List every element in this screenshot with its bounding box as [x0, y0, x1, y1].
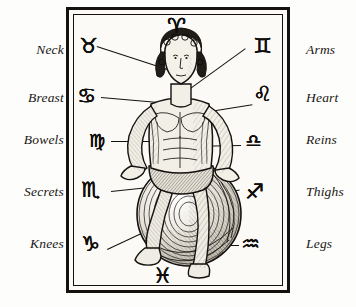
zodiac-glyph-capricorn: ♑ — [81, 234, 100, 255]
body-label-reins: Reins — [306, 133, 337, 147]
figure-neck — [171, 84, 191, 107]
body-label-heart: Heart — [306, 91, 339, 105]
zodiac-glyph-leo: ♌ — [253, 84, 272, 105]
plate-frame-outer: ♈ ♓ ♉ ♋ ♍ ♏ ♑ ♊ ♌ ♎ ♐ ♒ — [66, 7, 290, 293]
zodiac-man-figure — [105, 18, 255, 286]
zodiac-glyph-gemini: ♊ — [253, 36, 272, 57]
zodiac-glyph-aries: ♈ — [167, 16, 186, 37]
zodiac-glyph-pisces: ♓ — [153, 266, 172, 287]
zodiac-glyph-aquarius: ♒ — [241, 234, 260, 255]
body-label-neck: Neck — [36, 43, 64, 57]
body-label-knees: Knees — [30, 237, 64, 251]
zodiac-glyph-taurus: ♉ — [79, 36, 98, 57]
body-label-arms: Arms — [306, 43, 335, 57]
body-label-bowels: Bowels — [24, 133, 64, 147]
body-label-legs: Legs — [306, 237, 332, 251]
zodiac-glyph-scorpio: ♏ — [81, 180, 100, 201]
body-label-secrets: Secrets — [24, 185, 64, 199]
plate-interior: ♈ ♓ ♉ ♋ ♍ ♏ ♑ ♊ ♌ ♎ ♐ ♒ — [69, 10, 287, 290]
zodiac-man-plate: Neck Breast Bowels Secrets Knees Arms He… — [0, 0, 356, 307]
body-label-breast: Breast — [28, 91, 64, 105]
body-label-thighs: Thighs — [306, 185, 344, 199]
zodiac-glyph-cancer: ♋ — [77, 86, 96, 107]
zodiac-glyph-libra: ♎ — [245, 132, 261, 150]
zodiac-glyph-virgo: ♍ — [89, 132, 105, 150]
zodiac-glyph-sagittarius: ♐ — [245, 182, 264, 203]
